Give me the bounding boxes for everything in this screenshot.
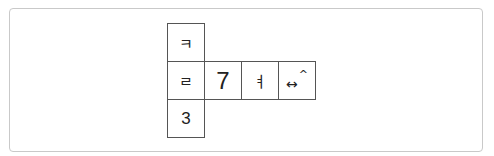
caret-icon: ^ <box>299 68 308 81</box>
cell-glyph: ㄹ <box>179 70 193 91</box>
cell-glyph: ㅕ <box>253 70 267 91</box>
cell-glyph: ㅋ <box>179 32 193 53</box>
net-cell-bottom: 3 <box>167 99 205 138</box>
cell-glyph: 7 <box>216 67 229 95</box>
net-cell-top: ㅋ <box>167 23 205 62</box>
net-cell-middle-2: 7 <box>204 61 242 100</box>
net-cell-middle-4: ↔^ <box>278 61 316 100</box>
cell-glyph: 3 <box>181 109 190 129</box>
net-cell-middle-3: ㅕ <box>241 61 279 100</box>
double-arrow-icon: ↔ <box>286 76 298 92</box>
net-cell-middle-1: ㄹ <box>167 61 205 100</box>
